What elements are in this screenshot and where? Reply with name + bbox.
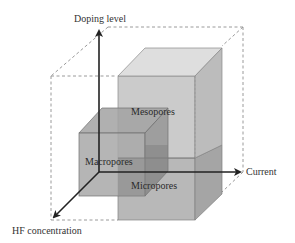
porous-silicon-regime-diagram: Doping level Current HF concentration Me… — [0, 0, 295, 243]
current-label: Current — [246, 167, 277, 177]
hf-concentration-label: HF concentration — [12, 226, 82, 236]
diagram-canvas — [0, 0, 295, 243]
macropores-label: Macropores — [85, 157, 133, 167]
mesopores-label: Mesopores — [131, 107, 175, 117]
doping-level-label: Doping level — [74, 14, 126, 24]
micropores-label: Micropores — [131, 181, 177, 191]
